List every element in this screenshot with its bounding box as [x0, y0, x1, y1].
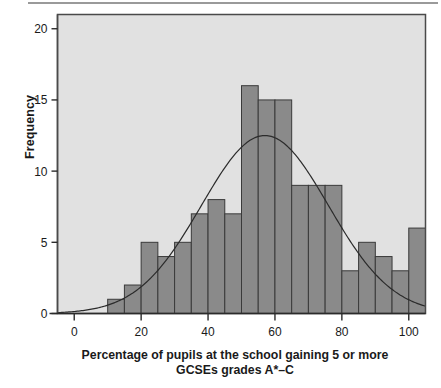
histogram-plot-area: 05101520 020406080100 — [0, 0, 441, 345]
histogram-bar — [392, 271, 409, 314]
histogram-bar — [342, 271, 359, 314]
histogram-bar — [242, 86, 259, 314]
histogram-bar — [359, 242, 376, 313]
y-axis-tick-label: 0 — [41, 307, 48, 321]
histogram-bar — [292, 185, 309, 313]
histogram-bar — [225, 214, 242, 314]
histogram-bar — [158, 257, 175, 314]
histogram-bar — [208, 200, 225, 314]
y-axis-group: 05101520 — [34, 15, 57, 322]
x-axis-tick-label: 0 — [71, 325, 78, 339]
y-axis-tick-label: 20 — [34, 22, 48, 36]
top-divider-rule — [28, 2, 438, 4]
x-axis-label: Percentage of pupils at the school gaini… — [40, 348, 430, 378]
histogram-bar — [275, 100, 292, 314]
histogram-bar — [375, 257, 392, 314]
histogram-bar — [191, 214, 208, 314]
x-axis-tick-label: 40 — [201, 325, 215, 339]
x-axis-tick-label: 20 — [134, 325, 148, 339]
x-axis-label-line-1: Percentage of pupils at the school gaini… — [40, 348, 430, 363]
histogram-bar — [308, 185, 325, 313]
y-axis-tick-label: 5 — [41, 236, 48, 250]
x-axis-tick-label: 80 — [335, 325, 349, 339]
histogram-bar — [141, 242, 158, 313]
x-axis-group: 020406080100 — [50, 314, 426, 339]
histogram-bar — [175, 242, 192, 313]
x-axis-tick-label: 100 — [399, 325, 419, 339]
histogram-figure: Frequency 05101520 020406080100 Percenta… — [0, 0, 441, 388]
y-axis-label: Frequency — [23, 47, 37, 207]
x-axis-tick-label: 60 — [268, 325, 282, 339]
x-axis-label-line-2: GCSEs grades A*–C — [40, 363, 430, 378]
histogram-bar — [258, 100, 275, 314]
